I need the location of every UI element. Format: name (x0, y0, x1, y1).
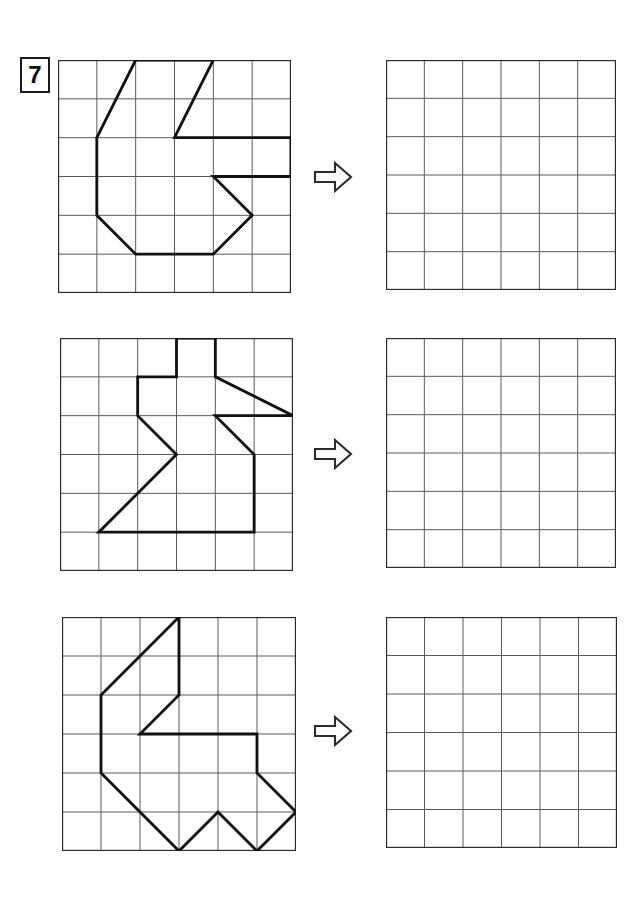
worksheet-page: 7 (0, 0, 644, 907)
arrow-right-icon (315, 440, 351, 468)
source-grid-2 (60, 338, 293, 571)
source-grid-3-canvas (62, 617, 296, 851)
figure-2 (99, 338, 293, 532)
answer-grid-2[interactable] (386, 338, 616, 568)
answer-grid-2-canvas[interactable] (386, 338, 616, 568)
answer-grid-1[interactable] (386, 60, 616, 290)
answer-grid-3[interactable] (386, 617, 617, 848)
arrow-3 (313, 714, 353, 752)
grid-lines (386, 60, 616, 290)
exercise-number-badge: 7 (20, 57, 50, 93)
arrow-1 (313, 160, 353, 198)
arrow-1-icon (313, 160, 353, 194)
answer-grid-1-canvas[interactable] (386, 60, 616, 290)
source-grid-2-canvas (60, 338, 293, 571)
arrow-3-icon (313, 714, 353, 748)
grid-lines (386, 338, 616, 568)
arrow-2-icon (313, 437, 353, 471)
source-grid-1 (58, 60, 291, 293)
arrow-right-icon (315, 163, 351, 191)
arrow-2 (313, 437, 353, 475)
figure-1 (97, 60, 291, 254)
arrow-right-icon (315, 717, 351, 745)
grid-lines (386, 617, 617, 848)
source-grid-3 (62, 617, 296, 851)
source-grid-1-canvas (58, 60, 291, 293)
answer-grid-3-canvas[interactable] (386, 617, 617, 848)
